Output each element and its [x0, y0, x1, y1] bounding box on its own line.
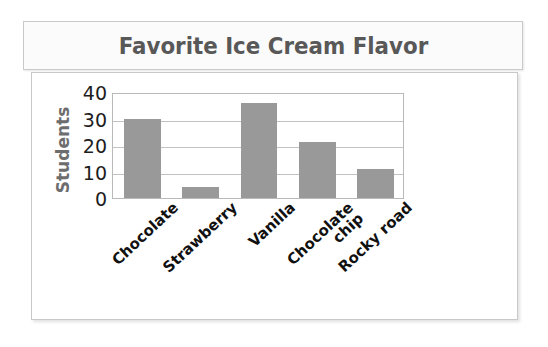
bar	[357, 169, 394, 198]
bar-series	[113, 94, 403, 198]
y-tick-label: 0	[74, 190, 107, 209]
bar	[124, 119, 161, 199]
bar	[299, 142, 336, 198]
y-axis-tick-labels: 010203040	[74, 84, 107, 212]
y-tick-label: 10	[74, 163, 107, 182]
chart-figure: Favorite Ice Cream Flavor Students 01020…	[0, 0, 548, 347]
y-tick-label: 40	[74, 84, 107, 103]
y-axis-title: Students	[52, 96, 74, 204]
bar	[241, 103, 278, 198]
x-tick-label: Vanilla	[246, 200, 298, 250]
x-axis-tick-labels: ChocolateStrawberryVanillaChocolate chip…	[112, 200, 404, 312]
plot-area	[112, 93, 404, 199]
chart-title-box: Favorite Ice Cream Flavor	[23, 21, 523, 70]
y-axis-title-text: Students	[53, 107, 73, 194]
y-tick-label: 20	[74, 137, 107, 156]
bar	[182, 187, 219, 198]
page-title: Favorite Ice Cream Flavor	[118, 33, 428, 59]
y-tick-label: 30	[74, 110, 107, 129]
